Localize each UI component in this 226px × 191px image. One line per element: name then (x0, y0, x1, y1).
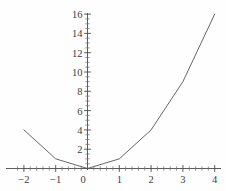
axes-group (6, 13, 221, 170)
y-tick-label: 14 (72, 28, 83, 39)
y-tick-label: 6 (77, 105, 82, 116)
y-tick-label: 8 (77, 86, 82, 97)
x-tick-label: 1 (117, 174, 122, 185)
y-tick-label: 4 (77, 124, 82, 135)
y-tick-label: 12 (72, 47, 83, 58)
x-tick-label: −1 (50, 174, 61, 185)
x-tick-label: 2 (148, 174, 153, 185)
chart-figure: −2−11234 246810121416 0 (0, 0, 226, 191)
y-tick-label: 10 (72, 67, 83, 78)
plot-canvas (0, 0, 226, 191)
x-tick-label: −2 (18, 174, 29, 185)
y-tick-label: 2 (77, 144, 82, 155)
y-tick-label: 16 (72, 9, 83, 20)
data-series-line (24, 14, 215, 168)
x-tick-label: 4 (212, 174, 217, 185)
origin-tick-label: 0 (80, 174, 85, 185)
x-tick-label: 3 (180, 174, 185, 185)
